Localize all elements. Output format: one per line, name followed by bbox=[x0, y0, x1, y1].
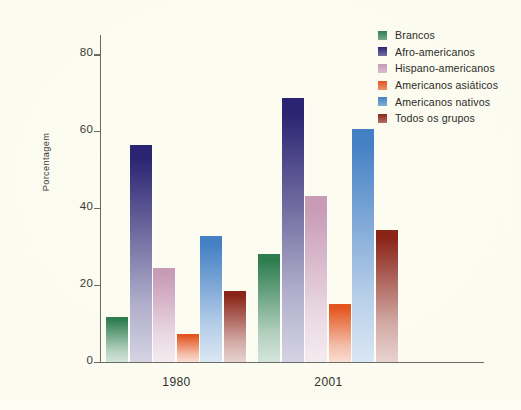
y-tick-label: 60 bbox=[80, 123, 93, 135]
legend-label: Hispano-americanos bbox=[395, 62, 495, 74]
legend-item: Americanos nativos bbox=[378, 93, 520, 110]
legend-label: Todos os grupos bbox=[395, 112, 475, 124]
y-axis-line bbox=[100, 35, 101, 363]
bar bbox=[329, 304, 351, 362]
y-tick-label: 40 bbox=[80, 200, 93, 212]
legend-label: Americanos nativos bbox=[395, 96, 490, 108]
chart-figure: Porcentagem 020406080 19802001 BrancosAf… bbox=[0, 0, 521, 410]
bar bbox=[224, 291, 246, 361]
y-tick-mark bbox=[94, 208, 100, 209]
legend-swatch-icon bbox=[378, 97, 387, 106]
y-tick-label: 20 bbox=[80, 277, 93, 289]
legend-item: Afro-americanos bbox=[378, 44, 520, 61]
legend-item: Americanos asiáticos bbox=[378, 77, 520, 94]
legend-item: Todos os grupos bbox=[378, 110, 520, 127]
bar bbox=[258, 254, 280, 362]
y-tick-mark bbox=[94, 362, 100, 363]
plot-area: 020406080 19802001 bbox=[100, 35, 376, 363]
y-tick-label: 0 bbox=[86, 354, 93, 366]
legend-label: Americanos asiáticos bbox=[395, 79, 498, 91]
legend-swatch-icon bbox=[378, 114, 387, 123]
chart-legend: BrancosAfro-americanosHispano-americanos… bbox=[378, 27, 520, 127]
y-tick-label: 80 bbox=[80, 46, 93, 58]
x-tick-label: 2001 bbox=[314, 375, 342, 389]
legend-swatch-icon bbox=[378, 47, 387, 56]
legend-swatch-icon bbox=[378, 81, 387, 90]
legend-item: Brancos bbox=[378, 27, 520, 44]
legend-label: Afro-americanos bbox=[395, 46, 475, 58]
legend-swatch-icon bbox=[378, 64, 387, 73]
x-axis-line bbox=[100, 362, 484, 363]
y-tick-mark bbox=[94, 285, 100, 286]
bar bbox=[130, 145, 152, 361]
legend-item: Hispano-americanos bbox=[378, 60, 520, 77]
y-tick-mark bbox=[94, 131, 100, 132]
bar bbox=[305, 196, 327, 362]
legend-label: Brancos bbox=[395, 29, 435, 41]
bar bbox=[153, 268, 175, 361]
bar bbox=[200, 236, 222, 362]
y-tick-mark bbox=[94, 54, 100, 55]
x-tick-label: 1980 bbox=[162, 375, 190, 389]
bar bbox=[106, 317, 128, 361]
bar bbox=[352, 129, 374, 362]
y-axis-title: Porcentagem bbox=[41, 133, 51, 192]
bar bbox=[177, 334, 199, 362]
legend-swatch-icon bbox=[378, 31, 387, 40]
bar bbox=[376, 230, 398, 362]
bar bbox=[282, 98, 304, 362]
